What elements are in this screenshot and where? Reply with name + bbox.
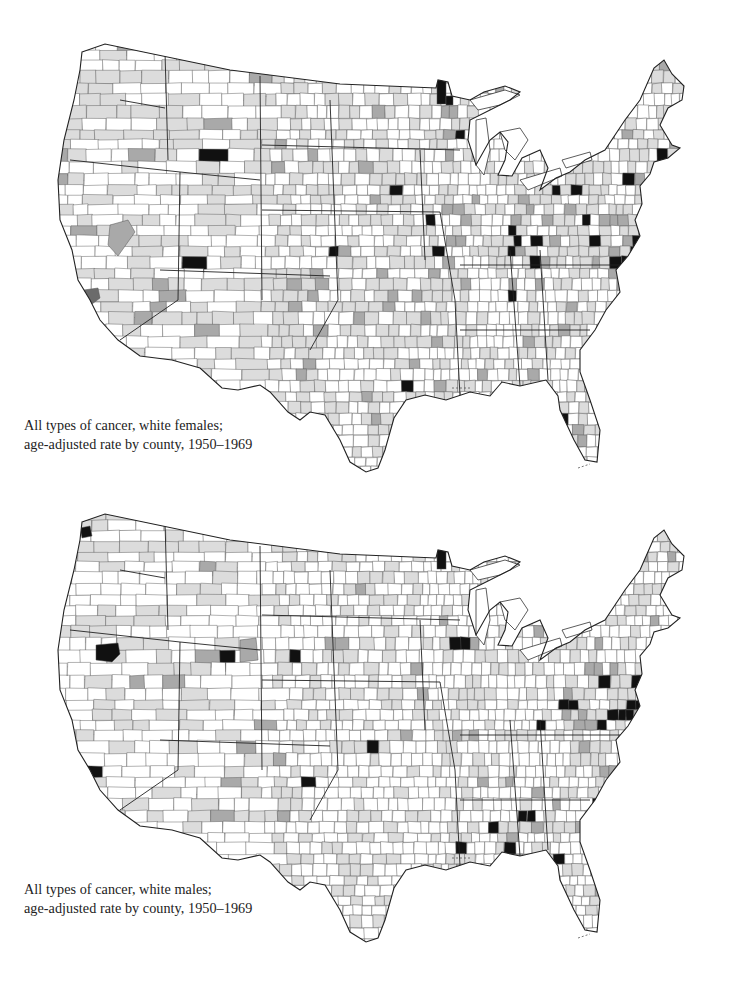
caption-line-1: All types of cancer, white males; [24,880,252,899]
county-highlight [437,545,446,569]
county-highlight [240,638,258,662]
choropleth-map-white-males [0,0,736,982]
caption-line-2: age-adjusted rate by county, 1950–1969 [24,899,252,918]
caption-white-males: All types of cancer, white males; age-ad… [24,880,252,917]
county-highlight [604,913,618,932]
map-panel-white-males: All types of cancer, white males; age-ad… [0,0,736,982]
